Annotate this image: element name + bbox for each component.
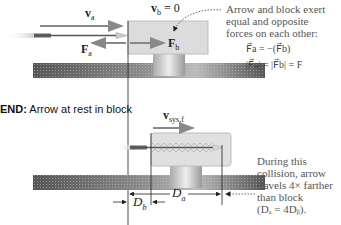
bottom-annotation: During this collision, arrow travels 4× … xyxy=(257,155,333,215)
distance-arrow-label: Da xyxy=(172,185,185,203)
block-velocity-label: vb = 0 xyxy=(151,1,180,17)
system-velocity-label: vsys,f xyxy=(163,108,184,124)
top-annotation: Arrow and block exert equal and opposite… xyxy=(226,3,325,39)
top-projectile-arrow xyxy=(5,33,127,39)
end-heading: END: Arrow at rest in block xyxy=(0,103,132,115)
velocity-a-label: va xyxy=(85,6,95,22)
force-b-label: Fb xyxy=(168,36,179,52)
bottom-block xyxy=(151,133,231,166)
top-rail xyxy=(33,63,265,78)
distance-block-label: Db xyxy=(133,194,146,212)
bottom-rail xyxy=(33,175,265,190)
force-equation-1: F⃗a = −(F⃗b) xyxy=(246,43,290,54)
force-equation-2: |F⃗a| = |F⃗b| = F xyxy=(246,59,302,70)
top-block-support xyxy=(153,54,185,76)
force-a-label: Fa xyxy=(81,42,92,58)
